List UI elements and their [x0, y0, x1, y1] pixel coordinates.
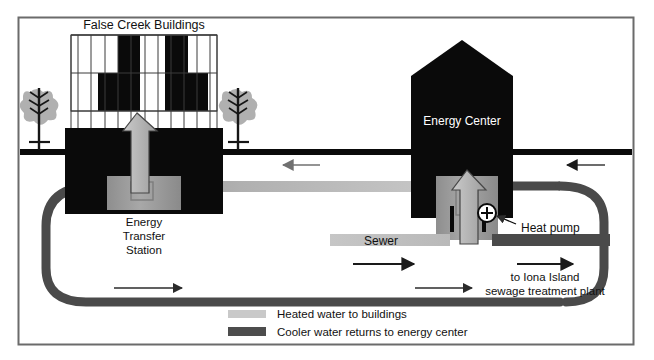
sewer-label: Sewer [364, 234, 398, 248]
legend-label-heated-water: Heated water to buildings [277, 308, 407, 320]
plus-in-circle-icon-heat-pump [478, 204, 496, 222]
energy-transfer-station-label-line3: Station [126, 244, 162, 256]
buildings-title-label: False Creek Buildings [83, 18, 205, 32]
energy-transfer-station-label-line1: Energy [126, 216, 163, 228]
energy-center-label: Energy Center [423, 114, 500, 128]
destination-label-line1: to Iona Island [510, 271, 579, 283]
heat-pump-label: Heat pump [521, 221, 580, 235]
energy-system-diagram: False Creek Buildings Energy Center Ener… [0, 0, 654, 360]
legend-label-cooler-water: Cooler water returns to energy center [277, 326, 468, 338]
energy-transfer-station-label-line2: Transfer [123, 230, 166, 242]
sewer-pipe-outflow [492, 234, 610, 246]
legend-swatch-cooler-water [228, 327, 266, 336]
destination-label-line2: sewage treatment plant [485, 285, 605, 297]
legend-swatch-heated-water [228, 310, 266, 318]
diagram-canvas: False Creek Buildings Energy Center Ener… [0, 0, 654, 360]
